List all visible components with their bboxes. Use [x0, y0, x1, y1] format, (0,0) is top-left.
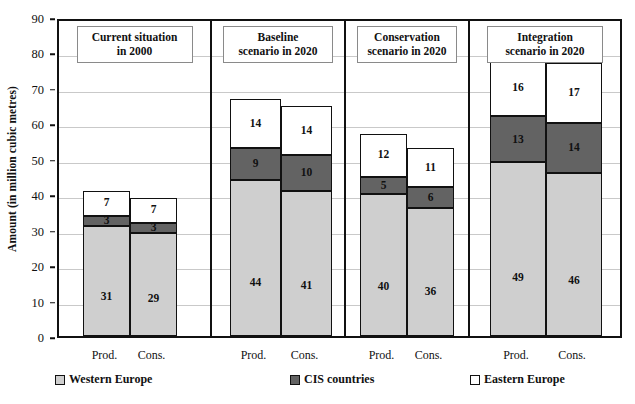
- bar-value-label: 14: [301, 125, 313, 137]
- bar-segment-ee[interactable]: 14: [281, 106, 332, 156]
- y-axis-title-text: Amount (in million cubic metres): [6, 86, 18, 252]
- legend-label: Western Europe: [69, 372, 152, 387]
- bar-segment-cis[interactable]: 3: [130, 223, 177, 234]
- y-tick-mark: [50, 302, 55, 304]
- x-category-label: Prod.: [241, 348, 267, 363]
- legend-item-ee[interactable]: Eastern Europe: [470, 372, 565, 387]
- bar-value-label: 3: [151, 222, 157, 234]
- bar-segment-ee[interactable]: 14: [230, 99, 281, 149]
- bar-segment-ee[interactable]: 16: [490, 60, 546, 117]
- y-tick-label: 10: [20, 295, 44, 310]
- y-tick-label: 20: [20, 260, 44, 275]
- bar-value-label: 46: [568, 275, 580, 287]
- bar-conservation-prod[interactable]: 40512: [360, 134, 407, 336]
- bar-segment-we[interactable]: 29: [130, 233, 177, 336]
- x-category-label: Cons.: [415, 348, 443, 363]
- bar-value-label: 7: [151, 204, 157, 216]
- bar-segment-cis[interactable]: 6: [407, 187, 454, 208]
- x-category-label: Cons.: [138, 348, 166, 363]
- bar-value-label: 7: [104, 197, 110, 209]
- y-tick-label: 80: [20, 47, 44, 62]
- bar-segment-we[interactable]: 36: [407, 208, 454, 336]
- bar-segment-cis[interactable]: 14: [546, 123, 602, 173]
- bar-segment-cis[interactable]: 9: [230, 148, 281, 180]
- bar-segment-we[interactable]: 49: [490, 162, 546, 336]
- bar-value-label: 40: [378, 281, 390, 293]
- bar-value-label: 14: [250, 118, 262, 130]
- bar-value-label: 36: [425, 286, 437, 298]
- y-tick-mark: [50, 195, 55, 197]
- legend-item-cis[interactable]: CIS countries: [290, 372, 374, 387]
- y-tick-mark: [50, 125, 55, 127]
- panel-title-line1: Current situation: [82, 30, 188, 44]
- y-tick-mark: [50, 18, 55, 20]
- bar-segment-cis[interactable]: 3: [83, 216, 130, 227]
- bar-value-label: 3: [104, 215, 110, 227]
- bar-current-situation-cons[interactable]: 2937: [130, 198, 177, 336]
- y-tick-label: 70: [20, 82, 44, 97]
- bar-segment-we[interactable]: 41: [281, 191, 332, 336]
- bar-conservation-cons[interactable]: 36611: [407, 148, 454, 336]
- bar-value-label: 16: [512, 82, 524, 94]
- bar-segment-ee[interactable]: 7: [130, 198, 177, 223]
- y-tick-label: 50: [20, 153, 44, 168]
- bar-value-label: 13: [512, 134, 524, 146]
- panel-title-3: Conservationscenario in 2020: [357, 26, 457, 63]
- y-tick-label: 60: [20, 118, 44, 133]
- panel-divider-1: [210, 21, 212, 336]
- panel-divider-2: [344, 21, 346, 336]
- bar-baseline-prod[interactable]: 44914: [230, 99, 281, 336]
- x-category-label: Prod.: [369, 348, 395, 363]
- bar-segment-we[interactable]: 40: [360, 194, 407, 336]
- bar-value-label: 9: [253, 158, 259, 170]
- bar-value-label: 5: [381, 180, 387, 192]
- bar-value-label: 49: [512, 272, 524, 284]
- y-tick-label: 90: [20, 12, 44, 27]
- panel-title-line1: Conservation: [362, 30, 452, 44]
- panel-title-line2: scenario in 2020: [362, 44, 452, 58]
- y-tick-mark: [50, 266, 55, 268]
- x-category-label: Prod.: [503, 348, 529, 363]
- legend-label: Eastern Europe: [484, 372, 565, 387]
- y-tick-label: 0: [20, 331, 44, 346]
- chart-root: Amount (in million cubic metres) Current…: [0, 0, 635, 404]
- bar-segment-cis[interactable]: 10: [281, 155, 332, 190]
- bar-value-label: 17: [568, 87, 580, 99]
- panel-title-line1: Integration: [492, 30, 598, 44]
- y-tick-mark: [50, 54, 55, 56]
- panel-title-4: Integrationscenario in 2020: [487, 26, 603, 63]
- bar-segment-ee[interactable]: 12: [360, 134, 407, 177]
- y-tick-label: 40: [20, 189, 44, 204]
- bar-baseline-cons[interactable]: 411014: [281, 106, 332, 336]
- bar-segment-we[interactable]: 31: [83, 226, 130, 336]
- bar-value-label: 12: [378, 149, 390, 161]
- bar-segment-ee[interactable]: 11: [407, 148, 454, 187]
- bar-value-label: 10: [301, 167, 313, 179]
- bar-value-label: 41: [301, 280, 313, 292]
- bar-segment-cis[interactable]: 13: [490, 116, 546, 162]
- chart-legend: Western EuropeCIS countriesEastern Europ…: [0, 372, 635, 392]
- bar-value-label: 14: [568, 142, 580, 154]
- bar-segment-ee[interactable]: 7: [83, 191, 130, 216]
- x-category-label: Cons.: [291, 348, 319, 363]
- bar-current-situation-prod[interactable]: 3137: [83, 191, 130, 336]
- bar-value-label: 31: [101, 291, 113, 303]
- bar-segment-ee[interactable]: 17: [546, 63, 602, 123]
- legend-swatch-we: [55, 375, 65, 385]
- legend-label: CIS countries: [304, 372, 374, 387]
- bar-integration-prod[interactable]: 491316: [490, 60, 546, 336]
- bar-value-label: 11: [425, 162, 436, 174]
- panel-title-line2: scenario in 2020: [228, 44, 328, 58]
- panel-title-line2: in 2000: [82, 44, 188, 58]
- bar-value-label: 6: [428, 192, 434, 204]
- y-tick-label: 30: [20, 224, 44, 239]
- panel-title-2: Baselinescenario in 2020: [223, 26, 333, 63]
- bar-segment-we[interactable]: 46: [546, 173, 602, 336]
- bar-integration-cons[interactable]: 461417: [546, 63, 602, 336]
- y-tick-mark: [50, 231, 55, 233]
- panel-divider-3: [468, 21, 470, 336]
- legend-item-we[interactable]: Western Europe: [55, 372, 152, 387]
- bar-segment-we[interactable]: 44: [230, 180, 281, 336]
- bar-value-label: 44: [250, 277, 262, 289]
- bar-segment-cis[interactable]: 5: [360, 177, 407, 195]
